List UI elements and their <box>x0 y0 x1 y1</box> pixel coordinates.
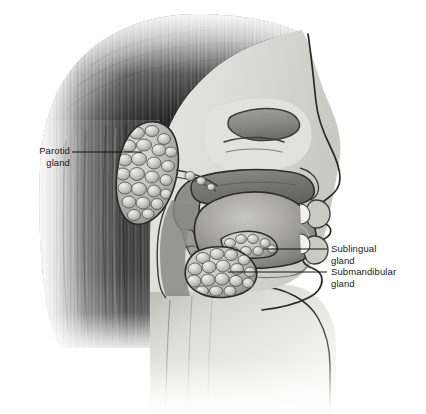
anatomy-illustration <box>0 0 426 414</box>
submandibular-gland-label-line1: Submandibular <box>331 266 426 278</box>
parotid-gland-label: Parotid gland <box>4 145 70 168</box>
parotid-gland-label-line1: Parotid <box>4 145 70 157</box>
parotid-gland-label-line2: gland <box>4 157 70 169</box>
neck <box>140 284 350 414</box>
submandibular-gland-label-line2: gland <box>331 278 426 290</box>
sublingual-gland-label-line1: Sublingual <box>331 243 423 255</box>
submandibular-gland-label: Submandibular gland <box>331 266 426 289</box>
sublingual-gland-label-line2: gland <box>331 255 423 267</box>
anatomy-figure: Parotid gland Sublingual gland Submandib… <box>0 0 426 414</box>
sublingual-gland-label: Sublingual gland <box>331 243 423 266</box>
